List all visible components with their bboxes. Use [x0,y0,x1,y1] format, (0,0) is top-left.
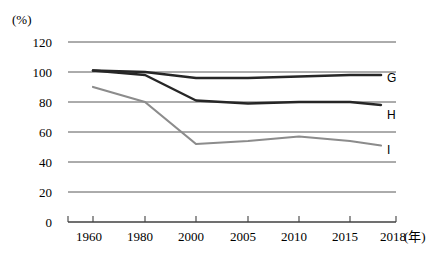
series-label-H: H [387,108,396,122]
series-label-G: G [387,71,396,85]
y-tick-labels: 120 100 80 60 40 20 0 [33,35,53,230]
series-lines [93,71,381,146]
ytick-label-120: 120 [33,35,53,50]
chart-canvas: (%) 120 100 80 60 40 20 0 1960 1980 2000… [0,0,436,260]
ytick-label-20: 20 [39,185,52,200]
ytick-label-100: 100 [33,65,53,80]
series-label-I: I [387,143,390,157]
xtick-label-2015: 2015 [332,229,358,244]
xtick-label-2000: 2000 [178,229,204,244]
ytick-label-0: 0 [46,215,53,230]
xtick-label-2005: 2005 [230,229,256,244]
line-chart: (%) 120 100 80 60 40 20 0 1960 1980 2000… [0,0,436,260]
xtick-label-2010: 2010 [281,229,307,244]
y-axis-unit-label: (%) [12,12,32,27]
ytick-label-40: 40 [39,155,52,170]
x-axis-unit-label: (年) [404,229,426,244]
series-labels: G H I [387,71,396,157]
y-gridlines [68,42,396,192]
series-line-I [93,87,381,146]
xtick-label-1980: 1980 [127,229,153,244]
ytick-label-80: 80 [39,95,52,110]
xtick-label-1960: 1960 [76,229,102,244]
ytick-label-60: 60 [39,125,52,140]
x-axis [68,216,396,222]
x-tick-labels: 1960 1980 2000 2005 2010 2015 2018 (年) [76,229,426,244]
xtick-label-2018: 2018 [380,229,406,244]
